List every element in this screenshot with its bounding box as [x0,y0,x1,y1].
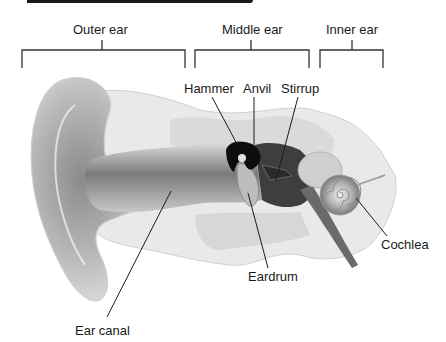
label-outer-ear: Outer ear [73,22,128,37]
label-hammer: Hammer [184,81,234,96]
middle-ear-bracket [195,40,309,68]
label-anvil: Anvil [243,81,271,96]
label-cochlea: Cochlea [381,237,429,252]
label-middle-ear: Middle ear [222,22,283,37]
cochlea-shape [320,175,360,215]
label-eardrum: Eardrum [248,269,298,284]
ossicle-highlight [238,154,246,162]
label-ear-canal: Ear canal [75,323,130,338]
inner-ear-bracket [320,40,383,68]
outer-ear-bracket [22,40,185,68]
label-inner-ear: Inner ear [326,22,378,37]
ear-illustration [0,0,446,342]
label-stirrup: Stirrup [281,81,319,96]
